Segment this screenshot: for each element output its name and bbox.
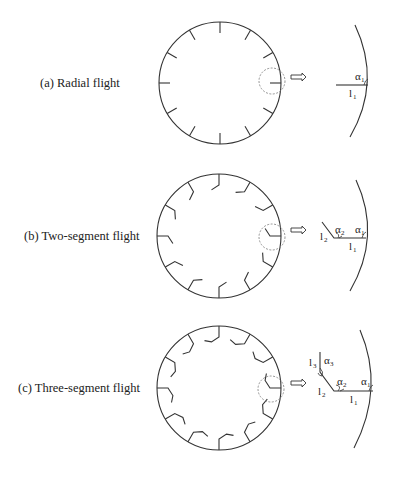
drum-circle-c xyxy=(157,326,281,450)
l3-sub-c: 3 xyxy=(313,362,317,370)
flight-blade xyxy=(255,205,273,211)
alpha3-sub-c: 3 xyxy=(330,360,334,368)
drum-wall-detail-b xyxy=(350,180,368,291)
flight-blade xyxy=(245,272,251,290)
flight-blade xyxy=(188,432,208,442)
flight-blade xyxy=(167,53,177,59)
panel-a-title: (a) Radial flight xyxy=(40,76,120,90)
flight-blade xyxy=(157,388,173,403)
l1-sub-a: 1 xyxy=(353,93,357,101)
two-segment-flights-b xyxy=(157,174,281,298)
flight-blade xyxy=(265,229,281,237)
l1-sub-b: 1 xyxy=(353,246,357,254)
alpha1-sub-a: 1 xyxy=(361,76,365,84)
l2-label-b: l xyxy=(320,230,323,242)
flight-blade xyxy=(165,205,175,219)
flight-blade xyxy=(190,126,196,136)
hollow-right-arrow-icon xyxy=(291,379,306,387)
radial-flights-a xyxy=(159,22,281,144)
flight-blade xyxy=(157,236,173,244)
three-segment-flights-c xyxy=(157,326,281,450)
panel-b xyxy=(157,174,368,298)
alpha1-sub-c: 1 xyxy=(367,381,371,389)
flight-blade xyxy=(263,53,273,59)
l2-label-c: l xyxy=(318,385,321,397)
flight-configuration-diagram: (a) Radial flight (b) Two-segment flight… xyxy=(0,0,395,480)
flight-blade xyxy=(245,30,251,40)
flight-blade xyxy=(205,326,220,342)
panel-c xyxy=(157,326,373,450)
drum-wall-detail-c xyxy=(354,330,371,448)
l1-label-c: l xyxy=(350,393,353,405)
flight-blade xyxy=(219,434,234,450)
panel-a xyxy=(159,22,368,144)
flight-blade xyxy=(190,30,196,40)
l1-label-a: l xyxy=(349,87,352,99)
flight-blade xyxy=(263,399,273,419)
flight-blade xyxy=(230,334,250,344)
hollow-right-arrow-icon xyxy=(291,226,306,234)
flight-blade xyxy=(265,374,281,389)
flight-blade xyxy=(263,253,273,267)
drum-circle-b xyxy=(157,174,281,298)
hollow-right-arrow-icon xyxy=(291,73,306,81)
l1-label-b: l xyxy=(349,240,352,252)
alpha2-sub-c: 2 xyxy=(343,381,347,389)
alpha1-sub-b: 1 xyxy=(361,229,365,237)
flight-blade xyxy=(263,108,273,114)
l1-sub-c: 1 xyxy=(354,399,358,407)
drum-circle-a xyxy=(159,22,281,144)
flight-blade xyxy=(167,108,177,114)
flight-blade xyxy=(165,262,183,268)
flight-blade xyxy=(219,282,227,298)
flight-blade xyxy=(236,182,250,192)
alpha2-sub-b: 2 xyxy=(341,229,345,237)
panel-c-title: (c) Three-segment flight xyxy=(18,381,140,395)
flight-blade xyxy=(245,126,251,136)
l2-sub-c: 2 xyxy=(322,391,326,399)
flight-blade xyxy=(165,357,175,377)
l2-sub-b: 2 xyxy=(324,236,328,244)
flight-blade xyxy=(212,174,220,190)
flight-blade xyxy=(188,182,194,200)
panel-b-title: (b) Two-segment flight xyxy=(24,229,140,243)
l3-label-c: l xyxy=(309,356,312,368)
flight-blade xyxy=(188,280,202,290)
